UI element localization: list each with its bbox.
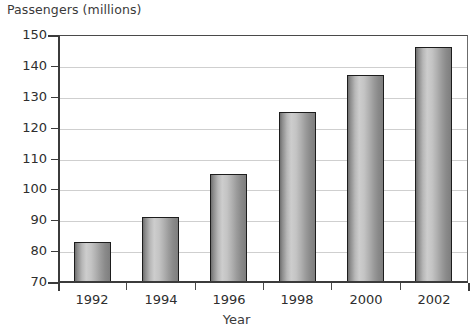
- x-axis-tick: [263, 283, 264, 290]
- plot-area: [58, 35, 468, 282]
- bar: [279, 112, 316, 282]
- x-axis-tick: [58, 283, 60, 291]
- x-axis-tick: [126, 283, 127, 290]
- x-axis-title: Year: [0, 312, 475, 327]
- gridline: [60, 98, 467, 99]
- y-axis-label: 70: [0, 274, 47, 290]
- bar: [74, 242, 111, 282]
- y-axis-label: 150: [0, 27, 47, 43]
- y-axis-tick: [51, 66, 59, 67]
- gridline: [60, 221, 467, 222]
- y-axis-label-text: 150: [3, 27, 47, 42]
- x-axis-tick: [331, 283, 332, 290]
- y-axis-tick: [51, 220, 59, 221]
- bar-chart: Passengers (millions) 708090100110120130…: [0, 0, 475, 333]
- x-axis-label: 1998: [262, 292, 332, 307]
- x-axis-title-text: Year: [223, 312, 251, 327]
- y-axis-label-text: 80: [3, 243, 47, 258]
- bar: [415, 47, 452, 282]
- gridline: [60, 190, 467, 191]
- x-axis-tick: [400, 283, 401, 290]
- y-axis-tick: [51, 159, 59, 160]
- gridline: [60, 67, 467, 68]
- x-axis-tick: [468, 283, 470, 291]
- x-axis-label: 1994: [126, 292, 196, 307]
- y-axis-label-text: 140: [3, 58, 47, 73]
- gridline: [60, 252, 467, 253]
- y-axis-label: 90: [0, 212, 47, 228]
- y-axis-label: 80: [0, 243, 47, 259]
- y-axis-label-text: 70: [3, 274, 47, 289]
- gridline: [60, 129, 467, 130]
- y-axis-tick: [48, 35, 59, 37]
- gridline: [60, 160, 467, 161]
- y-axis-label: 140: [0, 58, 47, 74]
- y-axis-label-text: 130: [3, 89, 47, 104]
- y-axis-label: 100: [0, 181, 47, 197]
- x-axis-tick: [195, 283, 196, 290]
- y-axis-label-text: 100: [3, 181, 47, 196]
- x-axis-label: 1992: [57, 292, 127, 307]
- x-axis-label: 1996: [194, 292, 264, 307]
- y-axis-tick: [51, 189, 59, 190]
- y-axis-label-text: 120: [3, 120, 47, 135]
- y-axis-label: 130: [0, 89, 47, 105]
- y-axis-label-text: 90: [3, 212, 47, 227]
- y-axis-tick: [51, 251, 59, 252]
- bar: [347, 75, 384, 282]
- y-axis-label: 120: [0, 120, 47, 136]
- y-axis-label-text: 110: [3, 151, 47, 166]
- y-axis-tick: [51, 97, 59, 98]
- chart-title: Passengers (millions): [7, 2, 142, 17]
- bar: [210, 174, 247, 282]
- y-axis-label: 110: [0, 151, 47, 167]
- bar: [142, 217, 179, 282]
- x-axis-label: 2002: [399, 292, 469, 307]
- y-axis-tick: [51, 128, 59, 129]
- x-axis-label: 2000: [331, 292, 401, 307]
